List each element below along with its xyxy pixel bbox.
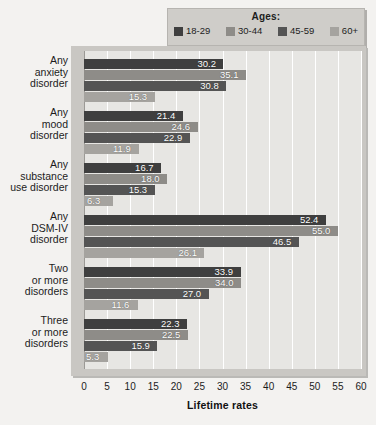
bar-row: 5.3 [84,352,361,362]
x-tick-label-55: 55 [332,381,343,393]
bar-row: 16.7 [84,163,361,173]
bar-value-label: 26.1 [178,247,197,258]
category-label-line: disorders [2,338,68,350]
x-axis-title: Lifetime rates [84,399,361,411]
x-tick-label-25: 25 [194,381,205,393]
gridline-60 [361,51,362,369]
bar-row: 22.9 [84,133,361,143]
legend-swatch-icon [226,27,235,36]
x-tick-label-35: 35 [240,381,251,393]
bar-row: 55.0 [84,226,361,236]
bar-value-label: 5.3 [86,351,99,362]
bar-value-label: 27.0 [183,288,202,299]
legend-swatch-icon [278,27,287,36]
legend-item-label: 18-29 [186,26,210,36]
bar-value-label: 16.7 [135,162,154,173]
x-tick-label-20: 20 [171,381,182,393]
legend-swatch-icon [330,27,339,36]
bar-row: 30.2 [84,59,361,69]
bar-group: 16.718.015.36.3 [84,163,361,207]
bar-row: 15.3 [84,92,361,102]
bar-row: 24.6 [84,122,361,132]
legend-item-18-29[interactable]: 18-29 [174,26,210,36]
legend-item-label: 60+ [342,26,358,36]
bar-value-label: 15.3 [129,184,148,195]
bar-value-label: 22.5 [162,329,181,340]
bar-row: 11.6 [84,300,361,310]
bar-value-label: 22.3 [161,318,180,329]
bar-row: 27.0 [84,289,361,299]
bar-value-label: 46.5 [273,236,292,247]
bar-value-label: 52.4 [300,214,319,225]
x-tick-label-60: 60 [355,381,366,393]
legend-title: Ages: [168,11,364,23]
category-label-4: Twoor moredisorders [2,263,68,298]
bar-row: 46.5 [84,237,361,247]
x-tick-label-30: 30 [217,381,228,393]
bar-value-label: 15.9 [131,340,150,351]
bar-value-label: 21.4 [157,110,176,121]
bar-group: 52.455.046.526.1 [84,215,361,259]
chart-screenshot: Ages: 18-2930-4445-5960+ Anyanxietydisor… [0,0,376,425]
category-label-line: Any [2,211,68,223]
bar-row: 22.3 [84,319,361,329]
x-tick-label-5: 5 [104,381,110,393]
x-tick-label-15: 15 [148,381,159,393]
bar-value-label: 24.6 [172,121,191,132]
bar-value-label: 22.9 [164,132,183,143]
legend-items: 18-2930-4445-5960+ [168,23,364,36]
bar-row: 34.0 [84,278,361,288]
bar-row: 21.4 [84,111,361,121]
bar-row: 30.8 [84,81,361,91]
x-tick-label-45: 45 [286,381,297,393]
x-tick-label-50: 50 [309,381,320,393]
category-label-line: Any [2,159,68,171]
bar-value-label: 30.8 [200,80,219,91]
bar-row: 11.9 [84,144,361,154]
bar-row: 52.4 [84,215,361,225]
bar-row: 26.1 [84,248,361,258]
bar-group: 22.322.515.95.3 [84,319,361,363]
bar-row: 33.9 [84,267,361,277]
bar-row: 15.3 [84,185,361,195]
legend-item-60+[interactable]: 60+ [330,26,358,36]
legend-item-45-59[interactable]: 45-59 [278,26,314,36]
bar-group: 21.424.622.911.9 [84,111,361,155]
category-label-line: Any [2,107,68,119]
bar-45-59-3[interactable] [84,237,299,247]
bar-value-label: 15.3 [129,91,148,102]
category-label-5: Threeor moredisorders [2,315,68,350]
bar-value-label: 6.3 [87,195,100,206]
category-label-1: Anymooddisorder [2,107,68,142]
category-label-line: Any [2,55,68,67]
legend-swatch-icon [174,27,183,36]
x-tick-label-0: 0 [81,381,87,393]
bar-value-label: 11.6 [112,299,130,310]
bar-18-29-3[interactable] [84,215,326,225]
bar-30-44-3[interactable] [84,226,338,236]
bar-value-label: 55.0 [312,225,331,236]
x-tick-label-40: 40 [263,381,274,393]
category-label-line: Three [2,315,68,327]
legend-item-label: 30-44 [238,26,262,36]
bar-value-label: 35.1 [220,69,239,80]
bar-group: 33.934.027.011.6 [84,267,361,311]
legend-item-30-44[interactable]: 30-44 [226,26,262,36]
x-axis-ticks: 051015202530354045505560 [84,381,361,395]
bar-row: 35.1 [84,70,361,80]
plot-panel: 30.235.130.815.321.424.622.911.916.718.0… [71,46,366,376]
category-label-3: AnyDSM-IVdisorder [2,211,68,246]
bar-value-label: 18.0 [141,173,160,184]
bar-row: 6.3 [84,196,361,206]
category-label-line: disorder [2,130,68,142]
category-label-line: disorders [2,286,68,298]
category-label-line: use disorder [2,182,68,194]
plot-area: 30.235.130.815.321.424.622.911.916.718.0… [84,51,361,369]
category-label-0: Anyanxietydisorder [2,55,68,90]
bar-value-label: 33.9 [215,266,234,277]
bar-group: 30.235.130.815.3 [84,59,361,103]
legend-item-label: 45-59 [290,26,314,36]
bar-row: 18.0 [84,174,361,184]
category-axis-labels: AnyanxietydisorderAnymooddisorderAnysubs… [0,46,68,376]
category-label-line: disorder [2,78,68,90]
